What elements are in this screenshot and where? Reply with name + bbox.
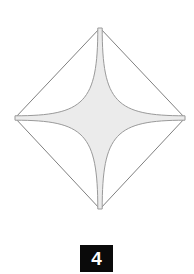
figure-number-badge: 4 bbox=[80, 245, 113, 272]
figure-number-label: 4 bbox=[91, 249, 102, 268]
geometric-figure bbox=[0, 0, 194, 274]
